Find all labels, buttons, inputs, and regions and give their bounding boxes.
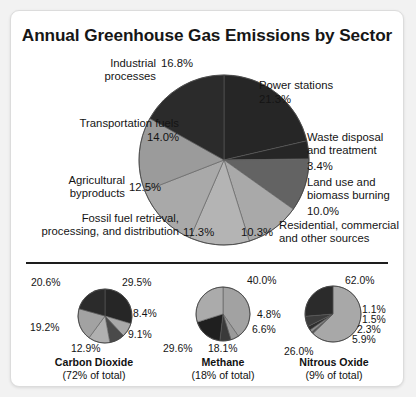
label-waste-disposal: Waste disposal and treatment [307, 131, 383, 156]
value-transportation-fuels: 14.0% [13, 131, 179, 144]
sub-chart-nitrous-oxide: 62.0% 1.1% 1.5% 2.3% 5.9% 26.0% Nitrous … [269, 267, 399, 386]
label-land-use: Land use and biomass burning [307, 176, 390, 201]
page-title: Annual Greenhouse Gas Emissions by Secto… [11, 25, 403, 46]
sub-charts: 20.6% 29.5% 8.4% 9.1% 19.2% 12.9% Carbon… [11, 267, 403, 386]
value-land-use: 10.0% [307, 205, 339, 218]
co2-value-20-6: 20.6% [31, 277, 60, 288]
ch4-value-29-6: 29.6% [163, 343, 192, 354]
section-divider [26, 262, 388, 264]
label-residential: Residential, commercial and other source… [279, 219, 399, 244]
value-fossil-fuel: 11.3% [183, 226, 214, 239]
co2-value-8-4: 8.4% [133, 308, 157, 319]
value-residential: 10.3% [241, 226, 273, 239]
value-waste-disposal: 3.4% [307, 160, 333, 173]
label-transportation-fuels: Transportation fuels [13, 117, 179, 130]
chart-card: Annual Greenhouse Gas Emissions by Secto… [10, 10, 404, 387]
co2-value-19-2: 19.2% [30, 322, 59, 333]
label-fossil-fuel: Fossil fuel retrieval, processing, and d… [13, 212, 179, 237]
value-power-stations: 21.3% [259, 93, 291, 106]
value-industrial-processes: 16.8% [161, 57, 193, 70]
co2-value-12-9: 12.9% [71, 343, 100, 354]
n2o-value-62-0: 62.0% [345, 275, 374, 286]
co2-caption: Carbon Dioxide (72% of total) [29, 356, 159, 381]
label-agricultural-byproducts: Agricultural byproducts [13, 174, 125, 199]
co2-pie-slices [78, 289, 132, 343]
co2-value-9-1: 9.1% [128, 329, 152, 340]
n2o-pie-slice-5 [305, 286, 333, 316]
ch4-value-18-1: 18.1% [208, 343, 237, 354]
sub-chart-carbon-dioxide: 20.6% 29.5% 8.4% 9.1% 19.2% 12.9% Carbon… [29, 267, 159, 386]
main-pie-chart: Industrial processes 16.8% Power station… [11, 45, 403, 261]
label-industrial-processes: Industrial processes [23, 57, 156, 82]
ch4-pie-slices [196, 287, 250, 341]
co2-value-29-5: 29.5% [122, 277, 151, 288]
n2o-caption: Nitrous Oxide (9% of total) [269, 356, 399, 381]
n2o-value-5-9: 5.9% [352, 334, 376, 345]
label-power-stations: Power stations [259, 79, 333, 92]
value-agricultural-byproducts: 12.5% [129, 181, 161, 194]
